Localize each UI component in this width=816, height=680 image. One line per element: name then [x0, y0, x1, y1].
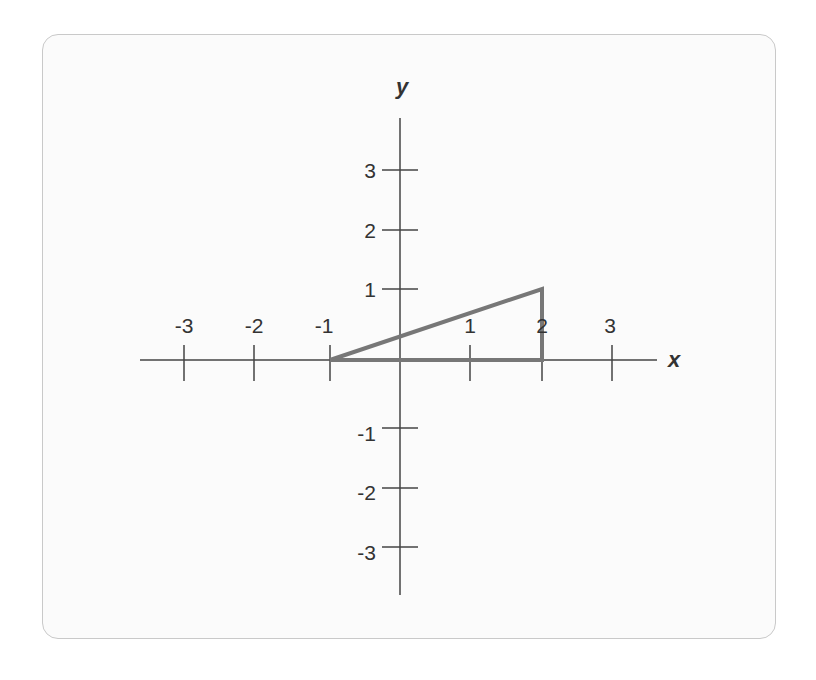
y-tick-label: -1: [357, 422, 376, 445]
x-tick-label: 3: [604, 314, 616, 337]
y-axis-label: y: [395, 74, 410, 99]
y-tick-label: 3: [364, 159, 376, 182]
y-tick-label: 2: [364, 219, 376, 242]
x-ticks: [184, 345, 612, 381]
y-tick-label: -3: [357, 541, 376, 564]
triangle-shape: [330, 289, 542, 360]
coordinate-plane: -3 -2 -1 1 2 3 3 2 1 -1 -2 -3 x y: [0, 0, 816, 680]
x-axis-label: x: [667, 347, 681, 372]
y-tick-label: 1: [364, 278, 376, 301]
x-tick-label: -1: [315, 314, 334, 337]
x-tick-label: 1: [464, 314, 476, 337]
x-tick-label: -2: [245, 314, 264, 337]
x-tick-label: 2: [536, 314, 548, 337]
x-tick-label: -3: [175, 314, 194, 337]
y-tick-label: -2: [357, 481, 376, 504]
